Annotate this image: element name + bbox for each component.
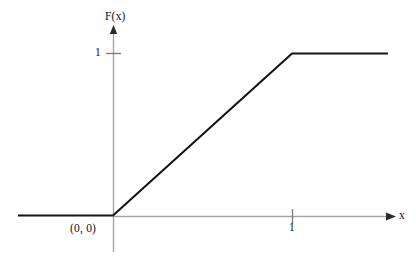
y-axis-title: F(x) (105, 11, 126, 23)
y-tick-label-1: 1 (95, 47, 101, 59)
x-axis-title: x (399, 210, 405, 222)
y-axis (110, 25, 117, 252)
x-axis (113, 213, 396, 221)
plot-canvas (0, 0, 416, 261)
x-tick-label-1: 1 (289, 222, 295, 234)
cdf-figure: F(x) 1 (0, 0) 1 x (0, 0, 416, 261)
cdf-curve (18, 54, 388, 216)
origin-label: (0, 0) (70, 223, 96, 235)
